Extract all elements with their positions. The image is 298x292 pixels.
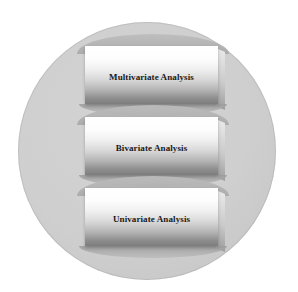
slab-side-face — [218, 191, 225, 252]
slab-univariate[interactable]: Univariate Analysis — [85, 188, 218, 246]
slab-multivariate[interactable]: Multivariate Analysis — [85, 46, 218, 104]
slab-front-face: Univariate Analysis — [85, 188, 218, 246]
slab-front-face: Multivariate Analysis — [85, 46, 218, 104]
slab-label-univariate: Univariate Analysis — [113, 214, 190, 224]
slab-front-face: Bivariate Analysis — [85, 117, 218, 175]
slab-label-bivariate: Bivariate Analysis — [116, 143, 188, 153]
slab-bivariate[interactable]: Bivariate Analysis — [85, 117, 218, 175]
slab-side-face — [218, 120, 225, 181]
diagram-canvas: Multivariate Analysis Bivariate Analysis… — [0, 0, 298, 292]
slab-label-multivariate: Multivariate Analysis — [109, 72, 194, 82]
slab-side-face — [218, 49, 225, 110]
